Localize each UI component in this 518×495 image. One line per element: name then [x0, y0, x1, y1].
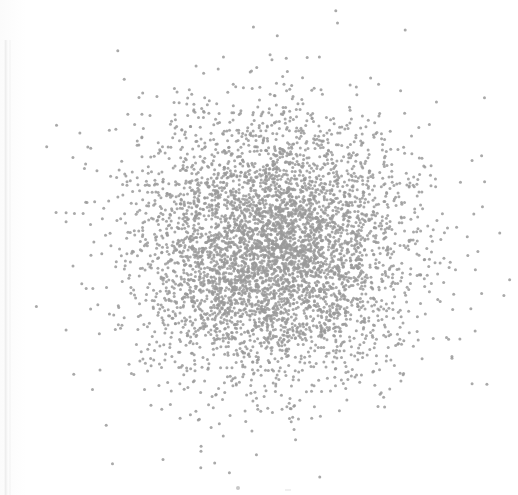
scatter-figure [0, 0, 518, 495]
scatter-plot-canvas [0, 0, 518, 495]
